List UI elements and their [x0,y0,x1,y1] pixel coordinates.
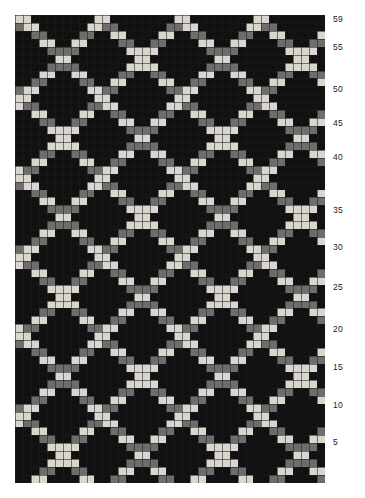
row-number-label: 30 [333,243,343,252]
pattern-chart-page: 51015202530354045505559 [0,0,365,498]
row-number-label: 20 [333,325,343,334]
row-number-label: 40 [333,153,343,162]
row-number-label: 25 [333,283,343,292]
pattern-grid-canvas[interactable] [15,15,325,483]
row-number-label: 45 [333,119,343,128]
pattern-grid[interactable] [15,15,325,483]
row-number-label: 10 [333,401,343,410]
row-number-label: 50 [333,85,343,94]
row-number-label: 59 [333,15,343,24]
row-number-label: 35 [333,206,343,215]
row-number-axis: 51015202530354045505559 [325,0,365,498]
row-number-label: 15 [333,363,343,372]
row-number-label: 55 [333,43,343,52]
row-number-label: 5 [333,438,338,447]
